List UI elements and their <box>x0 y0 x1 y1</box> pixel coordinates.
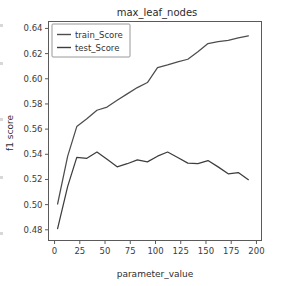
y-tick-label: 0.52 <box>24 174 43 184</box>
y-tick-label: 0.54 <box>24 149 43 159</box>
legend-label-test-score: test_Score <box>75 43 119 53</box>
x-tick-label: 200 <box>248 246 264 256</box>
x-tick-label: 75 <box>125 246 136 256</box>
x-tick-label: 50 <box>100 246 111 256</box>
edge-artifact-5 <box>0 232 3 235</box>
edge-artifact-4 <box>0 176 3 179</box>
edge-artifact-2 <box>0 62 3 65</box>
y-tick-label: 0.60 <box>24 74 43 84</box>
legend-label-train-score: train_Score <box>75 30 123 40</box>
x-tick-label: 100 <box>147 246 163 256</box>
x-tick-label: 150 <box>198 246 214 256</box>
y-tick-label: 0.48 <box>24 225 43 235</box>
edge-artifact-1 <box>0 24 3 27</box>
x-tick-label: 25 <box>74 246 85 256</box>
chart-figure: max_leaf_nodes 0.480.500.520.540.560.580… <box>0 0 286 286</box>
x-tick-label: 175 <box>223 246 239 256</box>
x-tick-label: 0 <box>52 246 57 256</box>
y-tick-label: 0.50 <box>24 200 43 210</box>
y-tick-label: 0.58 <box>24 99 43 109</box>
y-tick-label: 0.62 <box>24 49 43 59</box>
chart-title: max_leaf_nodes <box>117 7 198 19</box>
y-tick-label: 0.56 <box>24 124 43 134</box>
x-tick-label: 125 <box>173 246 189 256</box>
line-chart: max_leaf_nodes 0.480.500.520.540.560.580… <box>0 0 286 286</box>
chart-legend[interactable]: train_Score test_Score <box>52 24 130 57</box>
y-axis-label: f1 score <box>5 115 15 151</box>
figure-background <box>0 0 286 286</box>
y-tick-label: 0.64 <box>24 23 43 33</box>
x-axis-label: parameter_value <box>117 269 194 279</box>
edge-artifact-3 <box>0 118 3 121</box>
